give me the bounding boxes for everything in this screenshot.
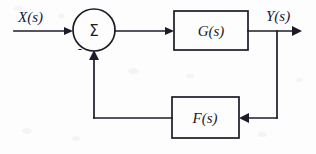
- summing-junction: Σ -: [73, 9, 115, 56]
- wire-forward-block-to-output: [248, 26, 302, 36]
- forward-block-input-arrowhead-icon: [165, 27, 174, 35]
- wire-summer-to-forward-block: [115, 27, 174, 35]
- output-signal-label: Y(s): [266, 8, 290, 25]
- diagram-canvas: Σ - G(s) F(s): [0, 0, 316, 154]
- feedback-block-label: F(s): [192, 110, 218, 127]
- input-arrowhead-icon: [64, 27, 73, 35]
- block-diagram: Σ - G(s) F(s): [0, 0, 316, 154]
- negative-sign-label: -: [78, 41, 82, 56]
- forward-block: G(s): [174, 11, 248, 50]
- forward-block-label: G(s): [198, 23, 225, 40]
- feedback-block-input-arrowhead-icon: [239, 113, 249, 123]
- sigma-symbol: Σ: [89, 22, 98, 40]
- output-arrowhead-icon: [292, 26, 302, 36]
- feedback-block: F(s): [172, 97, 239, 138]
- wire-input-to-summer: [14, 27, 73, 35]
- input-signal-label: X(s): [17, 9, 43, 26]
- wire-feedback-block-to-summer: [89, 50, 172, 118]
